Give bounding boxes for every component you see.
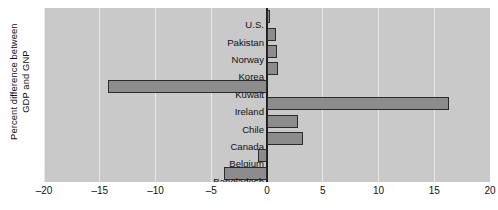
x-axis-tick-label: –10 bbox=[136, 185, 176, 196]
x-axis-tick-label: –15 bbox=[80, 185, 120, 196]
gridline bbox=[211, 8, 212, 182]
plot-area: U.S.PakistanNorwayKoreaKuwaitIrelandChil… bbox=[44, 8, 490, 182]
gridline bbox=[378, 8, 379, 182]
x-axis-tick-label: 15 bbox=[414, 185, 454, 196]
bar-category-label: Kuwait bbox=[235, 88, 264, 101]
chart-bar bbox=[267, 62, 278, 75]
chart-container: Percent difference between GDP and GNP U… bbox=[0, 0, 498, 210]
y-axis-title: Percent difference between GDP and GNP bbox=[8, 2, 31, 162]
x-axis-tick-label: –20 bbox=[24, 185, 64, 196]
bar-category-label: Chile bbox=[242, 123, 264, 136]
gridline bbox=[490, 8, 491, 182]
chart-bar bbox=[267, 10, 270, 23]
gridline bbox=[434, 8, 435, 182]
bar-category-label: Pakistan bbox=[227, 36, 264, 49]
gridline bbox=[44, 8, 45, 182]
x-axis-tick-label: 20 bbox=[470, 185, 498, 196]
x-axis-tick-label: 0 bbox=[247, 185, 287, 196]
x-axis-tick-label: –5 bbox=[191, 185, 231, 196]
bar-category-label: Norway bbox=[231, 53, 264, 66]
gridline bbox=[322, 8, 323, 182]
chart-bar bbox=[267, 115, 298, 128]
bar-category-label: U.S. bbox=[245, 18, 264, 31]
x-axis-tick-label: 10 bbox=[359, 185, 399, 196]
bar-category-label: Ireland bbox=[235, 105, 264, 118]
x-axis: –20–15–10–505101520 bbox=[44, 182, 490, 183]
chart-bar bbox=[267, 97, 449, 110]
chart-bar bbox=[267, 132, 303, 145]
chart-bar bbox=[267, 45, 277, 58]
x-axis-tick-label: 5 bbox=[303, 185, 343, 196]
bar-category-label: Bangladesh bbox=[213, 175, 264, 182]
y-axis-title-wrap: Percent difference between GDP and GNP bbox=[0, 0, 40, 190]
chart-bar bbox=[267, 28, 276, 41]
gridline bbox=[155, 8, 156, 182]
gridline bbox=[99, 8, 100, 182]
